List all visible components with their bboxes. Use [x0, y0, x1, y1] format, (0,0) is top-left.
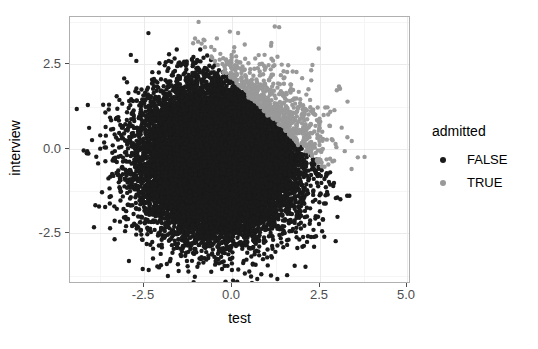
legend-title: admitted — [432, 123, 532, 139]
y-tick-mark — [65, 63, 69, 64]
x-tick-label: 0.0 — [222, 287, 240, 302]
plot-panel — [69, 16, 410, 283]
x-tick-label: -2.5 — [132, 287, 154, 302]
y-axis-title: interview — [7, 88, 23, 208]
y-tick-mark — [65, 148, 69, 149]
legend-item-false[interactable]: FALSE — [432, 148, 532, 171]
x-tick-label: 5.0 — [397, 287, 415, 302]
legend-key-true-icon — [432, 180, 454, 186]
scatter-plot-figure: -2.50.02.55.02.50.0-2.5 test interview a… — [0, 0, 538, 349]
x-tick-label: 2.5 — [310, 287, 328, 302]
legend: admitted FALSE TRUE — [432, 123, 532, 194]
scatter-points-layer — [70, 17, 410, 283]
legend-key-false-icon — [432, 157, 454, 163]
x-axis-title: test — [69, 310, 410, 326]
legend-label-false: FALSE — [467, 152, 507, 167]
y-tick-label: -2.5 — [0, 225, 61, 240]
y-tick-label: 2.5 — [0, 56, 61, 71]
legend-label-true: TRUE — [467, 175, 502, 190]
y-tick-mark — [65, 232, 69, 233]
legend-item-true[interactable]: TRUE — [432, 171, 532, 194]
